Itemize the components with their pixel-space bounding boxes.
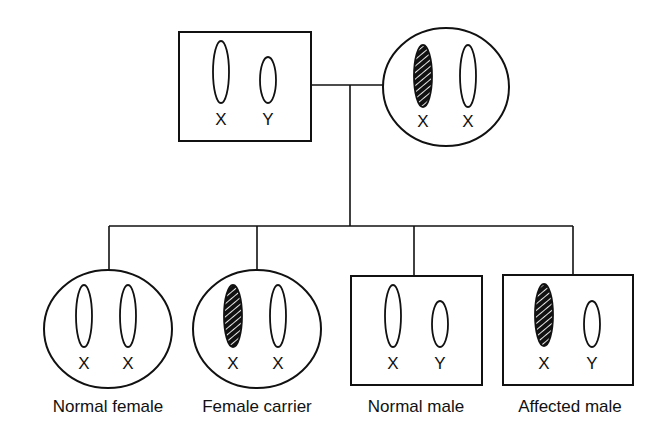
chromosome-y-icon xyxy=(260,57,276,103)
chromosome-label: X xyxy=(78,354,89,373)
chromosome-x-icon xyxy=(213,41,229,103)
chromosome-label: Y xyxy=(586,354,597,373)
chromosome-label: Y xyxy=(262,110,273,129)
chromosome-x-icon xyxy=(76,285,92,347)
chromosome-label: X xyxy=(538,354,549,373)
chromosome-x-icon xyxy=(120,285,136,347)
chromosome-y-icon xyxy=(584,301,600,347)
affected-chromosome-x-icon xyxy=(535,284,553,346)
chromosome-label: Y xyxy=(434,354,445,373)
chromosome-x-icon xyxy=(385,285,401,347)
chromosome-y-icon xyxy=(432,301,448,347)
father-symbol: X Y xyxy=(179,32,311,141)
chromosome-label: X xyxy=(387,354,398,373)
caption-normal-male: Normal male xyxy=(368,397,464,416)
child-affected-male: X Y Affected male xyxy=(503,275,633,416)
chromosome-label: X xyxy=(215,110,226,129)
chromosome-label: X xyxy=(417,112,428,131)
mother-symbol: X X xyxy=(383,28,509,146)
affected-chromosome-x-icon xyxy=(224,285,242,347)
caption-affected-male: Affected male xyxy=(518,397,622,416)
pedigree-diagram: X Y X X X X Normal female X X Female car… xyxy=(0,0,671,441)
chromosome-label: X xyxy=(272,354,283,373)
caption-normal-female: Normal female xyxy=(53,397,164,416)
caption-female-carrier: Female carrier xyxy=(202,397,312,416)
father-square xyxy=(179,32,311,141)
chromosome-label: X xyxy=(227,354,238,373)
child-female-carrier: X X Female carrier xyxy=(193,270,321,416)
chromosome-label: X xyxy=(462,112,473,131)
affected-chromosome-x-icon xyxy=(414,45,432,107)
female-circle xyxy=(193,270,321,388)
female-circle xyxy=(44,270,172,388)
chromosome-label: X xyxy=(122,354,133,373)
male-square xyxy=(503,275,633,385)
child-normal-male: X Y Normal male xyxy=(351,276,482,416)
chromosome-x-icon xyxy=(270,285,286,347)
male-square xyxy=(351,276,482,385)
mother-circle xyxy=(383,28,509,146)
child-normal-female: X X Normal female xyxy=(44,270,172,416)
chromosome-x-icon xyxy=(460,45,476,107)
